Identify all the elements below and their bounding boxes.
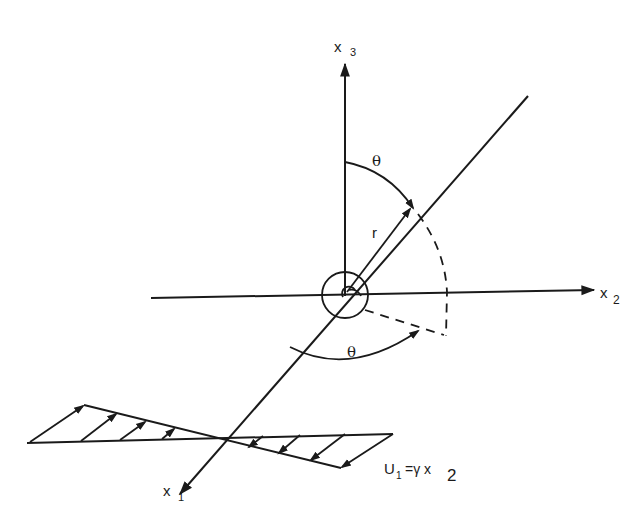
x3-axis: x 3: [334, 38, 356, 296]
equation-lhs-subscript: 1: [396, 470, 402, 481]
equation-rhs-subscript: 2: [447, 466, 456, 485]
equation-rhs: =γ x: [405, 461, 431, 477]
flow-equation: U 1 =γ x 2: [384, 460, 456, 485]
radius-label: r: [372, 224, 377, 241]
theta-arc-upper: θ: [345, 152, 413, 208]
shear-flow-coordinate-diagram: x 3 x 2 x 1 r θ θ: [0, 0, 640, 528]
x2-subscript: 2: [613, 293, 620, 307]
x3-subscript: 3: [350, 46, 356, 58]
x1-subscript: 1: [178, 491, 184, 503]
x2-label: x: [600, 284, 608, 301]
projection-dashed: [365, 214, 447, 336]
radius-vector: r: [347, 209, 410, 292]
x1-label: x: [163, 482, 171, 499]
x3-label: x: [334, 38, 342, 55]
equation-lhs: U: [384, 460, 395, 477]
theta-lower-label: θ: [347, 343, 356, 361]
x2-axis: x 2: [151, 284, 620, 307]
theta-upper-label: θ: [372, 152, 381, 170]
